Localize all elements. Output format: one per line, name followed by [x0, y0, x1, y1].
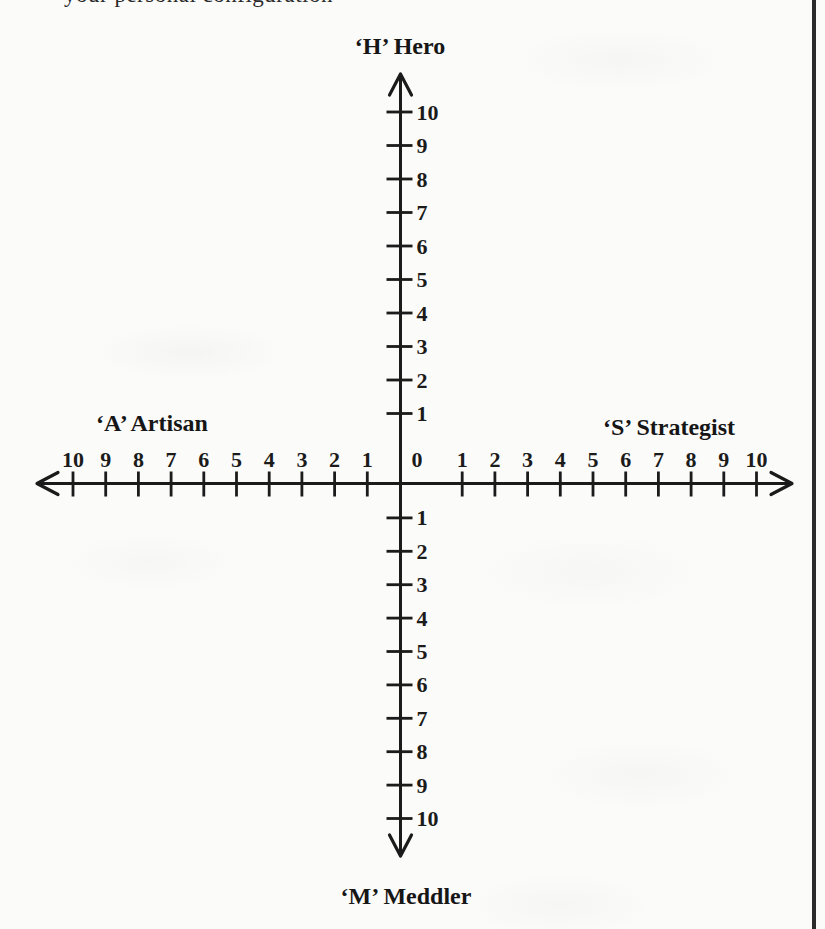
horizontal-axis-right-tick-label: 8	[686, 447, 697, 472]
page-edge-line	[812, 0, 816, 929]
vertical-axis-up-tick-label: 2	[417, 368, 428, 393]
horizontal-axis-right-tick-label: 6	[620, 447, 631, 472]
horizontal-axis-left-tick-label: 6	[198, 447, 209, 472]
scanned-page: { "page": { "top_text_fragment": "your p…	[0, 0, 825, 929]
horizontal-axis-left-tick-label: 3	[296, 447, 307, 472]
vertical-axis-down-tick-label: 9	[417, 773, 428, 798]
vertical-axis-down-tick-label: 6	[417, 672, 428, 697]
vertical-axis-up-tick-label: 5	[417, 267, 428, 292]
vertical-axis-down-tick-label: 4	[417, 606, 428, 631]
vertical-axis-down-tick-label: 10	[417, 806, 439, 831]
vertical-axis-down-tick-label: 2	[417, 539, 428, 564]
axis-label-strategist: ‘S’ Strategist	[603, 414, 735, 440]
axis-label-meddler: ‘M’ Meddler	[341, 883, 472, 909]
vertical-axis-up-tick-label: 3	[417, 334, 428, 359]
horizontal-axis-right-tick-label: 9	[718, 447, 729, 472]
horizontal-axis-left-tick-label: 5	[231, 447, 242, 472]
horizontal-axis-left-tick-label: 2	[329, 447, 340, 472]
horizontal-axis-right-tick-label: 3	[522, 447, 533, 472]
horizontal-axis-left-tick-label: 7	[166, 447, 177, 472]
horizontal-axis-left-tick-label: 4	[264, 447, 275, 472]
horizontal-axis-right-tick-label: 5	[588, 447, 599, 472]
vertical-axis-up-tick-label: 6	[417, 234, 428, 259]
vertical-axis-up-tick-label: 10	[417, 100, 439, 125]
vertical-axis-up-tick-label: 4	[417, 301, 428, 326]
horizontal-axis-left-tick-label: 10	[62, 447, 84, 472]
vertical-axis-up-tick-label: 8	[417, 167, 428, 192]
vertical-axis-down-tick-label: 3	[417, 572, 428, 597]
horizontal-axis-right-tick-label: 4	[555, 447, 566, 472]
axis-label-hero: ‘H’ Hero	[355, 33, 445, 59]
vertical-axis-down-tick-label: 8	[417, 739, 428, 764]
horizontal-axis-left-tick-label: 9	[100, 447, 111, 472]
hams-axes-diagram: 1111222233334444555566667777888899991010…	[0, 0, 825, 929]
vertical-axis-up-tick-label: 1	[417, 401, 428, 426]
axis-label-artisan: ‘A’ Artisan	[96, 410, 208, 436]
horizontal-axis-right-tick-label: 1	[457, 447, 468, 472]
vertical-axis-up-tick-label: 7	[417, 200, 428, 225]
horizontal-axis-right-tick-label: 7	[653, 447, 664, 472]
horizontal-axis-left-tick-label: 1	[362, 447, 373, 472]
vertical-axis-down-tick-label: 5	[417, 639, 428, 664]
origin-tick-label: 0	[412, 447, 423, 472]
vertical-axis-down-tick-label: 1	[417, 505, 428, 530]
vertical-axis-up-tick-label: 9	[417, 133, 428, 158]
vertical-axis-down-tick-label: 7	[417, 706, 428, 731]
horizontal-axis-right-tick-label: 10	[746, 447, 768, 472]
horizontal-axis-left-tick-label: 8	[133, 447, 144, 472]
horizontal-axis-right-tick-label: 2	[489, 447, 500, 472]
